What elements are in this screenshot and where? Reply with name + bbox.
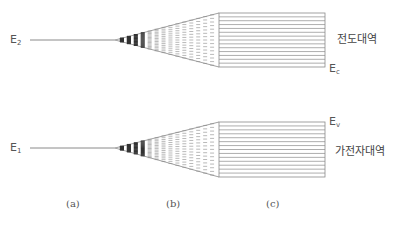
panel-label-b: (b) <box>166 199 180 209</box>
conduction-band-label: 전도대역 <box>337 34 377 45</box>
level-label-e1: E1 <box>10 142 21 155</box>
lower-level-group <box>30 122 325 177</box>
level-label-main: E <box>10 141 17 154</box>
level-label-sub: 1 <box>17 147 21 155</box>
level-label-main: E <box>10 33 17 46</box>
edge-label-sub: v <box>336 121 340 129</box>
edge-label-sub: c <box>336 68 340 76</box>
edge-label-main: E <box>329 115 336 128</box>
valence-band-label: 가전자대역 <box>335 146 385 157</box>
level-label-e2: E2 <box>10 34 21 47</box>
panel-label-a: (a) <box>66 199 80 209</box>
panel-label-c: (c) <box>266 199 279 209</box>
edge-label-main: E <box>329 62 336 75</box>
level-label-sub: 2 <box>17 39 21 47</box>
conduction-band-edge-label: Ec <box>329 63 340 76</box>
valence-band-edge-label: Ev <box>329 116 340 129</box>
energy-band-diagram: E2 E1 전도대역 Ec Ev 가전자대역 (a) (b) (c) <box>0 0 395 234</box>
upper-level-group <box>30 13 325 67</box>
